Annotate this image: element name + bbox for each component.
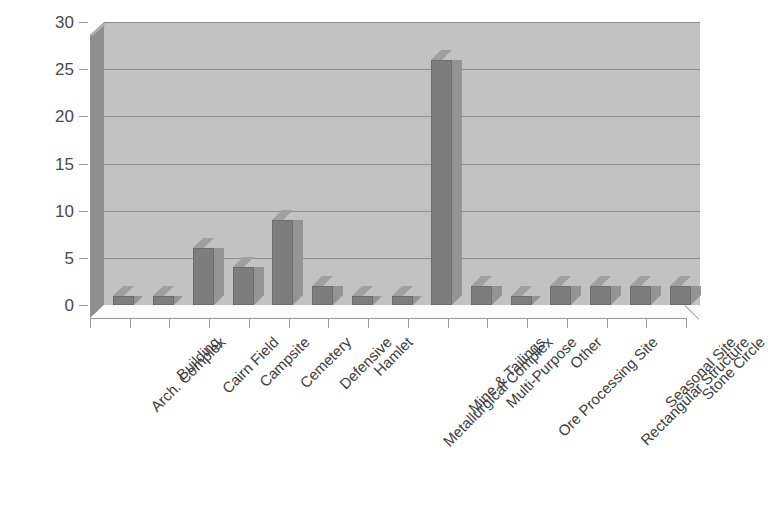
bar-front-face — [233, 267, 254, 305]
bar-front-face — [630, 286, 651, 305]
x-axis-tick-mark — [90, 318, 91, 328]
bar-top-face — [630, 276, 651, 286]
bar-side-face — [413, 296, 423, 305]
bar[interactable] — [392, 296, 413, 305]
bar-top-face — [670, 276, 691, 286]
bar-side-face — [293, 220, 303, 305]
x-axis-tick-mark — [646, 318, 647, 328]
bar-front-face — [471, 286, 492, 305]
bar-side-face — [571, 286, 581, 305]
bar-top-face — [193, 238, 214, 248]
y-axis-tick-mark — [79, 116, 88, 117]
bar[interactable] — [670, 286, 691, 305]
x-axis-tick-mark — [328, 318, 329, 328]
y-axis-tick-mark — [79, 69, 88, 70]
bar-top-face — [113, 286, 134, 296]
y-axis-tick-label: 30 — [55, 14, 74, 31]
bar-front-face — [113, 296, 134, 305]
y-axis-tick-label: 10 — [55, 202, 74, 219]
bar-front-face — [431, 60, 452, 305]
bar-top-face — [550, 276, 571, 286]
bar-side-face — [691, 286, 701, 305]
bar-side-face — [611, 286, 621, 305]
bar-top-face — [392, 286, 413, 296]
bar-top-face — [153, 286, 174, 296]
x-axis-tick-mark — [249, 318, 250, 328]
bar[interactable] — [113, 296, 134, 305]
y-axis-tick-mark — [79, 164, 88, 165]
x-axis-tick-mark — [448, 318, 449, 328]
x-axis-tick-mark — [487, 318, 488, 328]
bar-series — [90, 22, 700, 318]
bar-front-face — [511, 296, 532, 305]
x-axis-tick-mark — [607, 318, 608, 328]
bar-top-face — [312, 276, 333, 286]
bar-front-face — [153, 296, 174, 305]
bar-top-face — [471, 276, 492, 286]
bar[interactable] — [272, 220, 293, 305]
y-axis-tick-label: 15 — [55, 155, 74, 172]
x-axis-labels: Arch. ComplexBuildingCairn FieldCampsite… — [0, 330, 715, 520]
x-axis-tick-mark — [408, 318, 409, 328]
bar-front-face — [392, 296, 413, 305]
x-axis-tick-mark — [169, 318, 170, 328]
x-axis-tick-mark — [209, 318, 210, 328]
bar-side-face — [214, 248, 224, 305]
x-axis-tick-mark — [686, 318, 687, 328]
y-axis-tick-label: 25 — [55, 61, 74, 78]
bar[interactable] — [352, 296, 373, 305]
x-axis — [90, 318, 700, 330]
x-axis-tick-mark — [289, 318, 290, 328]
bar-front-face — [352, 296, 373, 305]
y-axis-tick-mark — [79, 22, 88, 23]
bar-side-face — [254, 267, 264, 305]
bar-side-face — [532, 296, 542, 305]
bar-front-face — [272, 220, 293, 305]
x-axis-tick-mark — [567, 318, 568, 328]
bar-front-face — [590, 286, 611, 305]
bar-side-face — [452, 60, 462, 305]
bar-top-face — [352, 286, 373, 296]
bar-top-face — [511, 286, 532, 296]
bar-side-face — [174, 296, 184, 305]
x-axis-tick-mark — [527, 318, 528, 328]
bar[interactable] — [550, 286, 571, 305]
y-axis-tick-mark — [79, 211, 88, 212]
x-axis-tick-mark — [130, 318, 131, 328]
bar-side-face — [651, 286, 661, 305]
y-axis-tick-label: 20 — [55, 108, 74, 125]
x-axis-line — [90, 318, 687, 319]
bar-top-face — [590, 276, 611, 286]
y-axis: 051015202530 — [28, 18, 90, 318]
bar-side-face — [333, 286, 343, 305]
bar-side-face — [492, 286, 502, 305]
bar[interactable] — [233, 267, 254, 305]
bar-front-face — [312, 286, 333, 305]
y-axis-tick-mark — [79, 305, 88, 306]
bar-side-face — [373, 296, 383, 305]
bar[interactable] — [431, 60, 452, 305]
y-axis-tick-label: 0 — [65, 297, 74, 314]
bar[interactable] — [312, 286, 333, 305]
bar-front-face — [193, 248, 214, 305]
bar[interactable] — [471, 286, 492, 305]
bar[interactable] — [193, 248, 214, 305]
bar-side-face — [134, 296, 144, 305]
bar-front-face — [670, 286, 691, 305]
bar-top-face — [233, 257, 254, 267]
x-axis-tick-mark — [368, 318, 369, 328]
bar[interactable] — [630, 286, 651, 305]
bar[interactable] — [153, 296, 174, 305]
bar-top-face — [272, 210, 293, 220]
y-axis-tick-label: 5 — [65, 249, 74, 266]
bar-top-face — [431, 50, 452, 60]
bar-front-face — [550, 286, 571, 305]
bar[interactable] — [590, 286, 611, 305]
bar[interactable] — [511, 296, 532, 305]
y-axis-tick-mark — [79, 258, 88, 259]
